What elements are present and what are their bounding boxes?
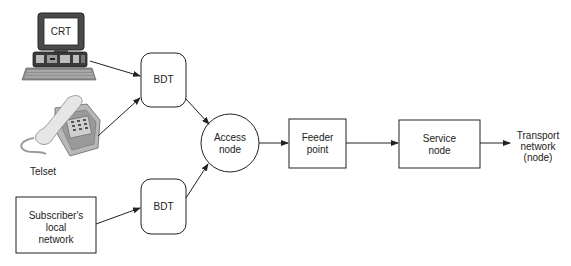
bdt-bottom-box: BDT [141,179,186,234]
transport-label-line1: Transport [517,130,560,141]
arrow-telset-to-bdt [98,98,140,136]
access-label-line1: Access [214,132,246,143]
feeder-point-box: Feeder point [289,119,346,168]
telephone-icon: Telset [21,96,100,177]
computer-terminal-icon: CRT [22,13,96,80]
subscriber-label-line1: Subscriber's [29,210,84,221]
access-label-line2: node [219,144,242,155]
diagram-canvas: CRT Telset Subscriber's local network BD… [0,0,571,266]
transport-label-line2: network [520,141,556,152]
transport-network-label: Transport network (node) [517,130,560,163]
feeder-label-line1: Feeder [302,132,334,143]
service-label-line2: node [428,145,451,156]
telset-label: Telset [30,166,56,177]
access-node-circle: Access node [201,114,259,172]
subscriber-label-line2: local [46,222,67,233]
arrow-crt-to-bdt [90,61,140,76]
bdt-bottom-label: BDT [154,201,174,212]
bdt-top-box: BDT [141,53,186,107]
subscriber-label-line3: network [38,234,74,245]
feeder-label-line2: point [307,144,329,155]
subscriber-network-box: Subscriber's local network [16,197,96,253]
service-label-line1: Service [423,133,457,144]
arrow-subscriber-to-bdt [96,208,140,224]
service-node-box: Service node [399,120,480,168]
arrow-bdt-top-to-access [186,99,209,124]
bdt-top-label: BDT [154,74,174,85]
arrow-bdt-bottom-to-access [186,164,208,198]
transport-label-line3: (node) [524,152,553,163]
crt-label: CRT [51,26,71,37]
